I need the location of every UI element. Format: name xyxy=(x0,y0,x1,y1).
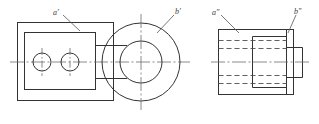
side-step-outline xyxy=(294,48,303,78)
label-front-face: a′ xyxy=(53,8,59,17)
projection-drawing: a′ b′ xyxy=(0,0,319,124)
side-view: a″ b″ xyxy=(211,7,310,95)
front-view: a′ b′ xyxy=(10,7,190,110)
label-side-step: b″ xyxy=(294,7,302,16)
front-inner-plate xyxy=(25,33,96,90)
front-outer-plate xyxy=(18,23,114,101)
label-side-face: a″ xyxy=(212,8,220,17)
front-circle-leader-line xyxy=(157,15,174,33)
side-face-leader-line xyxy=(221,15,239,33)
side-step-leader-line xyxy=(288,15,296,33)
label-front-circle: b′ xyxy=(175,7,181,16)
technical-drawing-sheet: a′ b′ xyxy=(0,0,319,124)
